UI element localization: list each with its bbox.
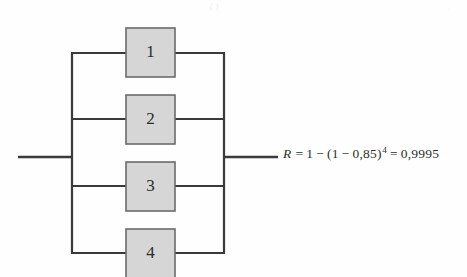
block-3: 3 xyxy=(126,162,175,211)
formula-equals: = xyxy=(292,146,306,161)
block-1-label: 1 xyxy=(146,42,155,61)
block-4-label: 4 xyxy=(146,243,155,262)
block-2: 2 xyxy=(126,95,175,144)
diagram-page: ( ) . 1 2 xyxy=(0,0,467,277)
formula-minus: − xyxy=(313,146,327,161)
block-2-label: 2 xyxy=(146,109,155,128)
formula-equals-2: = xyxy=(387,146,401,161)
block-4: 4 xyxy=(126,229,175,277)
reliability-formula: R=1−(1−0,85)4=0,9995 xyxy=(283,146,439,162)
formula-inner-minus: − xyxy=(339,146,353,161)
formula-result: 0,9995 xyxy=(401,146,439,161)
formula-component-reliability: 0,85 xyxy=(353,146,377,161)
block-1: 1 xyxy=(126,28,175,77)
reliability-block-diagram: 1 2 3 4 xyxy=(0,0,467,277)
block-3-label: 3 xyxy=(146,176,155,195)
formula-inner-one: 1 xyxy=(332,146,339,161)
wiring-network xyxy=(18,52,278,254)
formula-close-paren: ) xyxy=(377,146,382,161)
component-blocks: 1 2 3 4 xyxy=(126,28,175,277)
